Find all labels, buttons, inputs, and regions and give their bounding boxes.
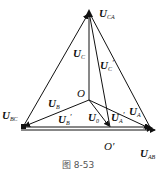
vertex-c-arrowhead (85, 9, 93, 17)
label-u-c: UC (73, 48, 85, 60)
label-point-o: O (77, 88, 85, 99)
label-u-c-prime: UC′ (100, 60, 114, 72)
label-u-bc: UBC (2, 110, 18, 122)
label-u-a-prime: UA′ (111, 112, 124, 124)
label-point-o-prime: O′ (104, 141, 114, 152)
line-bc-to-ca (23, 14, 88, 127)
label-u-a: UA (129, 106, 141, 118)
label-u-b-prime: UB′ (58, 114, 71, 126)
label-u-ab: UAB (140, 148, 155, 160)
vertex-b-marker (21, 124, 26, 129)
label-u-0: U0 (88, 112, 99, 124)
phasor-diagram (0, 0, 160, 170)
figure-caption: 图 8-53 (62, 158, 94, 170)
label-u-ca: UCA (99, 8, 115, 20)
label-u-b: UB (48, 98, 60, 110)
